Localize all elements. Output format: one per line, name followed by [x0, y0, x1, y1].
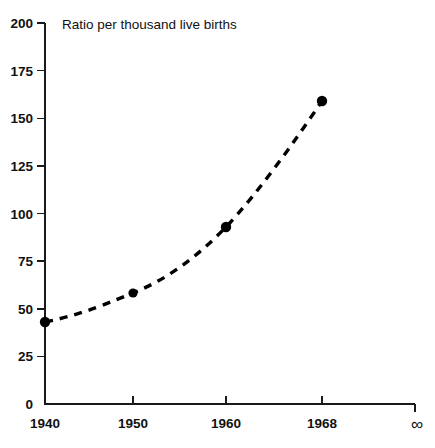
x-axis-label-infinity: ∞ [411, 415, 423, 434]
axis-frame [45, 23, 415, 404]
data-point-1950[interactable] [128, 288, 137, 297]
data-point-1960[interactable] [221, 222, 231, 232]
y-axis-label-200: 200 [10, 16, 33, 31]
data-point-1968[interactable] [317, 96, 327, 106]
data-point-1940[interactable] [40, 317, 50, 327]
series-points [40, 96, 327, 327]
x-axis-label-1940: 1940 [30, 416, 60, 431]
y-axis-label-75: 75 [18, 254, 34, 269]
y-axis-label-50: 50 [18, 302, 33, 317]
y-axis-label-0: 0 [25, 397, 33, 412]
chart-title: Ratio per thousand live births [62, 17, 237, 32]
y-axis-labels: 200 175 150 125 100 75 50 25 0 [10, 16, 33, 412]
series-line-ratio [45, 101, 322, 322]
x-axis-labels: 1940 1950 1960 1968 ∞ [30, 415, 423, 434]
line-chart: 200 175 150 125 100 75 50 25 0 1940 1950… [0, 0, 435, 448]
y-axis-label-25: 25 [18, 349, 34, 364]
x-axis-label-1950: 1950 [118, 416, 148, 431]
y-axis-label-175: 175 [10, 64, 33, 79]
x-axis-label-1960: 1960 [211, 416, 241, 431]
y-axis-label-100: 100 [10, 207, 33, 222]
y-axis-label-125: 125 [10, 159, 33, 174]
x-axis-ticks [133, 396, 322, 404]
x-axis-label-1968: 1968 [307, 416, 338, 431]
y-axis-label-150: 150 [10, 111, 33, 126]
y-axis-ticks [37, 23, 45, 356]
chart-container: 200 175 150 125 100 75 50 25 0 1940 1950… [0, 0, 435, 448]
